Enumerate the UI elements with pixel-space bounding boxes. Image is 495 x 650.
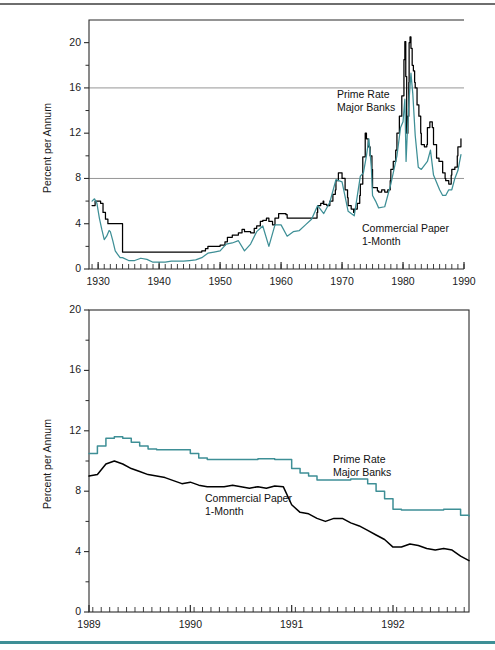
ytick-label: 0	[55, 605, 81, 617]
ytick-label: 12	[55, 126, 81, 138]
plot-frame	[89, 310, 469, 612]
y-axis-title: Percent per Annum	[41, 103, 53, 193]
ytick-label: 0	[55, 262, 81, 274]
top-divider-rule	[0, 3, 495, 5]
ytick-label: 4	[55, 545, 81, 557]
annotation-line-2: 1-Month	[362, 235, 449, 248]
xtick-label: 1970	[316, 275, 368, 287]
xtick-label: 1930	[72, 275, 124, 287]
prime-rate-label: Prime RateMajor Banks	[333, 453, 391, 478]
xtick-label: 1989	[63, 618, 115, 630]
annotation-line-2: 1-Month	[205, 505, 292, 518]
xtick-label: 1980	[377, 275, 429, 287]
ytick-label: 4	[55, 217, 81, 229]
commercial-paper-label: Commercial Paper1-Month	[205, 492, 292, 517]
annotation-line-2: Major Banks	[333, 466, 391, 479]
annotation-line-1: Prime Rate	[337, 88, 395, 101]
ytick-label: 12	[55, 424, 81, 436]
annotation-line-1: Prime Rate	[333, 453, 391, 466]
ytick-label: 20	[55, 303, 81, 315]
xtick-label: 1991	[266, 618, 318, 630]
annotation-line-1: Commercial Paper	[205, 492, 292, 505]
chart-recent-rates-1989-1992: 0481216201989199019911992Percent per Ann…	[0, 296, 495, 636]
xtick-label: 1990	[164, 618, 216, 630]
prime-rate-label: Prime RateMajor Banks	[337, 88, 395, 113]
ytick-label: 8	[55, 484, 81, 496]
xtick-label: 1960	[255, 275, 307, 287]
ytick-label: 16	[55, 81, 81, 93]
y-axis-title: Percent per Annum	[41, 419, 53, 509]
ytick-label: 16	[55, 363, 81, 375]
bottom-divider-rule	[0, 641, 495, 644]
annotation-line-1: Commercial Paper	[362, 222, 449, 235]
chart-historic-rates-1930-1990: 0481216201930194019501960197019801990Per…	[0, 8, 495, 292]
commercial-paper-label: Commercial Paper1-Month	[362, 222, 449, 247]
xtick-label: 1990	[438, 275, 490, 287]
xtick-label: 1940	[133, 275, 185, 287]
ytick-label: 8	[55, 171, 81, 183]
xtick-label: 1992	[367, 618, 419, 630]
xtick-label: 1950	[194, 275, 246, 287]
annotation-line-2: Major Banks	[337, 101, 395, 114]
ytick-label: 20	[55, 36, 81, 48]
